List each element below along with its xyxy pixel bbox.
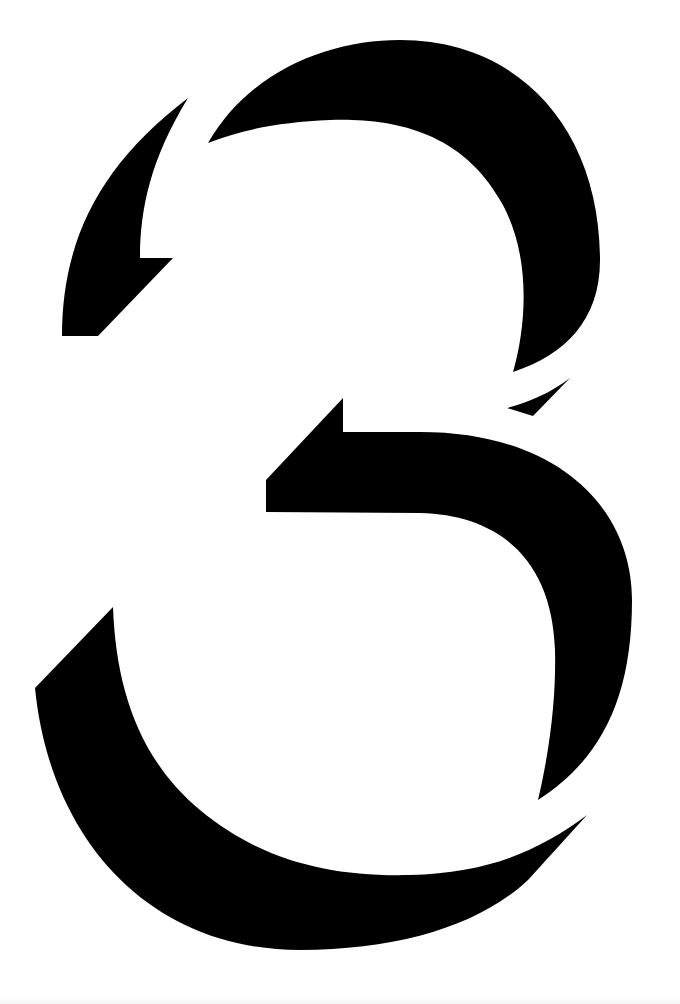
scan-edge: [0, 998, 680, 1004]
numeral-three-artwork: [0, 0, 680, 1004]
